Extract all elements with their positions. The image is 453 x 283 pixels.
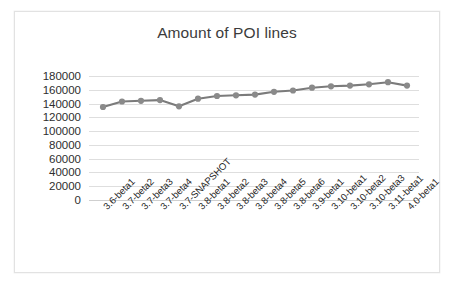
data-point[interactable] xyxy=(309,85,315,91)
data-point[interactable] xyxy=(404,83,410,89)
data-point[interactable] xyxy=(252,92,258,98)
y-axis-tick-label: 40000 xyxy=(49,167,81,178)
data-point[interactable] xyxy=(290,87,296,93)
y-axis-tick-label: 120000 xyxy=(43,112,81,123)
data-point[interactable] xyxy=(157,97,163,103)
y-axis-tick-label: 0 xyxy=(75,195,81,206)
data-point[interactable] xyxy=(119,98,125,104)
y-axis-tick-label: 160000 xyxy=(43,84,81,95)
data-point[interactable] xyxy=(195,96,201,102)
data-point[interactable] xyxy=(100,104,106,110)
data-point[interactable] xyxy=(176,103,182,109)
data-point[interactable] xyxy=(347,83,353,89)
data-point[interactable] xyxy=(385,79,391,85)
data-point[interactable] xyxy=(328,83,334,89)
data-point[interactable] xyxy=(366,81,372,87)
y-axis-tick-label: 80000 xyxy=(49,139,81,150)
chart-container: Amount of POI lines 18000016000014000012… xyxy=(14,11,440,273)
x-axis: 3.6-beta13.7-beta23.7-beta33.7-beta43.7-… xyxy=(89,202,419,274)
y-axis: 1800001600001400001200001000008000060000… xyxy=(15,12,85,274)
plot-area: 1800001600001400001200001000008000060000… xyxy=(15,12,441,274)
y-axis-tick-label: 140000 xyxy=(43,98,81,109)
y-axis-tick-label: 180000 xyxy=(43,71,81,82)
y-axis-tick-label: 20000 xyxy=(49,181,81,192)
data-point[interactable] xyxy=(214,93,220,99)
y-axis-tick-label: 100000 xyxy=(43,126,81,137)
data-point[interactable] xyxy=(138,98,144,104)
data-point[interactable] xyxy=(271,89,277,95)
data-point[interactable] xyxy=(233,92,239,98)
y-axis-tick-label: 60000 xyxy=(49,153,81,164)
